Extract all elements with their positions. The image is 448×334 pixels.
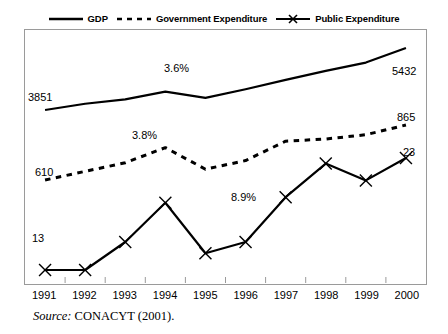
series-line-gdp [45,48,406,110]
x-tick-1993: 1993 [105,288,145,304]
marker-x-1996 [240,236,252,248]
data-label-government-expenditure-end: 865 [397,112,415,123]
solid-line-icon [49,14,83,24]
x-tick-1996: 1996 [225,288,265,304]
series-line-public-expenditure [45,158,406,270]
x-tick-1994: 1994 [145,288,185,304]
source-label: Source: [33,309,75,323]
chart-legend: GDP Government Expenditure Public Expend… [0,10,448,28]
legend-entry-government-expenditure: Government Expenditure [117,14,267,24]
data-label-public-expenditure-end: 23 [403,147,415,158]
legend-label-public-expenditure: Public Expenditure [315,14,399,24]
annotation-gdp-3-6-percent: 3.6% [164,63,189,74]
x-tick-1995: 1995 [185,288,225,304]
chart-plot-area: 3851 5432 610 865 13 23 3.6% 3.8% 8.9% [24,29,427,285]
data-label-public-expenditure-start: 13 [32,233,44,244]
source-text: CONACYT (2001). [75,309,175,323]
legend-entry-public-expenditure: Public Expenditure [276,14,399,24]
x-tick-1991: 1991 [24,288,64,304]
legend-entry-gdp: GDP [49,14,108,24]
data-label-gdp-end: 5432 [392,66,416,77]
data-label-gdp-start: 3851 [28,92,52,103]
line-with-x-marker-icon [276,14,310,24]
annotation-public-expenditure-8-9-percent: 8.9% [231,192,256,203]
x-tick-1997: 1997 [266,288,306,304]
x-tick-1992: 1992 [64,288,104,304]
chart-series-canvas [25,30,426,284]
source-note: Source: CONACYT (2001). [33,309,174,324]
x-axis-tick-labels: 1991 1992 1993 1994 1995 1996 1997 1998 … [24,288,427,304]
marker-x-1997 [280,191,292,203]
x-tick-1998: 1998 [306,288,346,304]
legend-label-gdp: GDP [88,14,108,24]
marker-x-1994 [159,197,171,209]
legend-label-government-expenditure: Government Expenditure [156,14,267,24]
series-line-government-expenditure [45,125,406,180]
annotation-government-expenditure-3-8-percent: 3.8% [132,130,157,141]
marker-x-1993 [119,236,131,248]
marker-x-1995 [199,247,211,259]
marker-x-1998 [320,158,332,170]
dashed-line-icon [117,14,151,24]
marker-x-1999 [360,174,372,186]
data-label-government-expenditure-start: 610 [35,167,53,178]
x-tick-1999: 1999 [346,288,386,304]
x-tick-2000: 2000 [387,288,427,304]
